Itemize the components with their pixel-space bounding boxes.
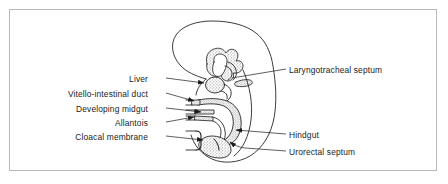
leader-line-allantois [166,117,194,122]
liver-bud [206,77,225,93]
label-allantois: Allantois [48,118,148,128]
embryo-body-group [173,21,276,162]
label-liver: Liver [38,74,148,84]
allantois-tube [195,116,213,121]
leader-line-liver [166,78,204,83]
label-developing-midgut: Developing midgut [38,104,148,114]
leader-line-vitello-intestinal-duct [166,93,194,101]
label-vitello-intestinal-duct: Vitello-intestinal duct [28,89,148,99]
leader-line-cloacal-membrane [166,136,203,140]
leader-line-hindgut [236,130,286,134]
duodenum-loop [221,91,227,99]
label-urorectal-septum: Urorectal septum [289,147,355,157]
vitello-duct-extension [186,100,192,105]
developing-midgut-band [195,110,214,114]
label-cloacal-membrane: Cloacal membrane [38,132,148,142]
lung-bud [235,80,253,87]
head-outline [196,79,206,95]
figure-root: Liver Vitello-intestinal duct Developing… [0,0,448,184]
label-hindgut: Hindgut [289,130,319,140]
label-laryngotracheal-septum: Laryngotracheal septum [289,65,382,75]
cloacal-membrane-stem [186,131,196,150]
